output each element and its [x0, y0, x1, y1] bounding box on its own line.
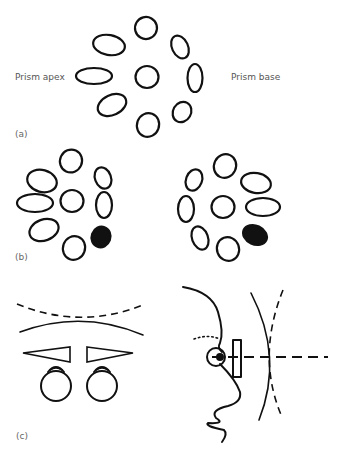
prism-base-label: Prism base — [231, 73, 280, 82]
right-prism — [87, 347, 133, 362]
prism-diagram — [0, 0, 339, 454]
panel-c-side-view — [183, 287, 328, 442]
panel-c-label: (c) — [16, 432, 28, 441]
panel-b-left-ring — [17, 146, 114, 263]
filled-ellipse-marker — [240, 221, 271, 249]
panel-c-front-view — [17, 304, 143, 401]
filled-ellipse-marker — [88, 224, 113, 250]
panel-a-label: (a) — [15, 130, 28, 139]
left-eye — [41, 371, 71, 401]
panel-a-ellipse-ring — [76, 13, 203, 140]
left-prism — [23, 347, 70, 362]
panel-b-label: (b) — [15, 253, 28, 262]
prism-apex-label: Prism apex — [15, 73, 65, 82]
right-eye — [87, 371, 117, 401]
panel-b-right-ring — [178, 150, 280, 264]
prism-block — [233, 340, 241, 377]
